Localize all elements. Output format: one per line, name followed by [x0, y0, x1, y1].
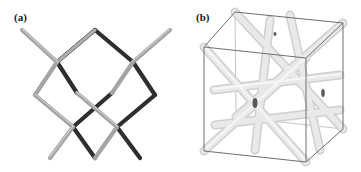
unit-cell-struts [204, 12, 343, 162]
panel-b: (b) [180, 0, 361, 172]
panel-a: (a) [0, 0, 180, 172]
cubic-unit-cell-diagram [180, 0, 361, 172]
diamond-lattice-diagram [0, 0, 180, 172]
